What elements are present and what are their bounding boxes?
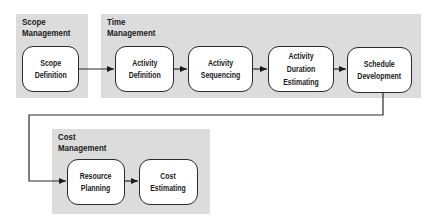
node-label: Definition <box>34 69 66 81</box>
node-label: Schedule <box>358 58 402 70</box>
node-label: Activity <box>283 50 319 63</box>
connector-lines <box>0 0 439 223</box>
node-label: Estimating <box>151 182 187 194</box>
node-cost-estimating: Cost Estimating <box>139 159 198 205</box>
node-label: Estimating <box>283 76 319 89</box>
node-label: Activity <box>128 57 160 69</box>
node-activity-definition: Activity Definition <box>115 46 174 92</box>
node-label: Sequencing <box>201 69 241 81</box>
node-scope-definition: Scope Definition <box>22 46 79 92</box>
node-label: Duration <box>283 63 319 76</box>
node-schedule-development: Schedule Development <box>347 47 412 93</box>
node-label: Activity <box>201 57 241 69</box>
node-label: Scope <box>34 57 66 69</box>
node-activity-duration-estimating: Activity Duration Estimating <box>268 46 334 92</box>
node-activity-sequencing: Activity Sequencing <box>188 46 253 92</box>
node-resource-planning: Resource Planning <box>67 159 125 205</box>
node-label: Cost <box>151 170 187 182</box>
node-label: Development <box>358 70 402 82</box>
node-label: Resource <box>80 170 112 182</box>
node-label: Planning <box>80 182 112 194</box>
node-label: Definition <box>128 69 160 81</box>
